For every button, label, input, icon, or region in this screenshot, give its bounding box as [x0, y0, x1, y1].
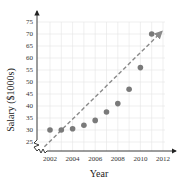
x-tick-label: 2008	[111, 155, 126, 163]
data-point	[81, 122, 87, 128]
data-point	[126, 86, 132, 92]
y-tick-label: 60	[26, 54, 34, 62]
x-axis-tick-labels: 200220042006200820102012	[43, 155, 171, 163]
data-point	[149, 31, 155, 37]
grid-lines	[37, 22, 165, 151]
y-axis-tick-labels: 2530354045505560657075	[26, 18, 34, 146]
y-tick-label: 40	[26, 102, 34, 110]
x-tick-label: 2002	[43, 155, 58, 163]
y-tick-label: 45	[26, 90, 34, 98]
data-point	[70, 126, 76, 132]
data-point	[115, 101, 121, 107]
y-tick-label: 75	[26, 18, 34, 26]
y-tick-label: 35	[26, 114, 34, 122]
x-tick-label: 2010	[133, 155, 148, 163]
data-point	[138, 65, 144, 71]
y-tick-label: 70	[26, 30, 34, 38]
x-tick-label: 2006	[88, 155, 103, 163]
data-point	[92, 118, 98, 124]
x-tick-label: 2004	[66, 155, 81, 163]
data-point	[47, 127, 53, 133]
y-tick-label: 55	[26, 66, 34, 74]
x-tick-label: 2012	[156, 155, 171, 163]
y-tick-label: 50	[26, 78, 34, 86]
salary-scatter-chart: 2530354045505560657075 20022004200620082…	[0, 0, 185, 191]
data-point	[104, 109, 110, 115]
y-tick-label: 25	[26, 138, 34, 146]
x-axis-break-icon	[37, 149, 47, 153]
y-axis-title: Salary ($1000s)	[5, 68, 17, 132]
y-tick-label: 65	[26, 42, 34, 50]
x-axis-title: Year	[90, 168, 109, 179]
y-tick-label: 30	[26, 126, 34, 134]
data-point	[59, 127, 65, 133]
